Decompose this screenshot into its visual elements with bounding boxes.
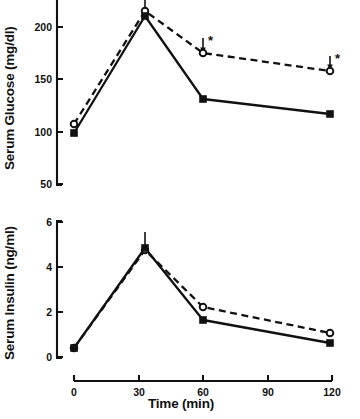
x-axis-title: Time (min) xyxy=(148,396,214,411)
x-tick-label-120: 120 xyxy=(320,386,344,398)
y-axis-line-insulin xyxy=(57,221,62,358)
y-tick-label-insulin-4: 4 xyxy=(26,261,52,273)
y-tick-label-glucose-50: 50 xyxy=(16,178,52,190)
y-tick-label-glucose-200: 200 xyxy=(16,21,52,33)
x-tick-label-30: 30 xyxy=(129,386,149,398)
y-tick-label-insulin-2: 2 xyxy=(26,306,52,318)
serum-insulin-plot xyxy=(0,205,360,419)
y-tick-label-insulin-6: 6 xyxy=(26,216,52,228)
figure-serum-glucose-insulin: Serum Glucose (mg/dl) 200 150 100 50 * * xyxy=(0,0,360,419)
y-tick-label-glucose-150: 150 xyxy=(16,73,52,85)
x-tick-label-90: 90 xyxy=(258,386,278,398)
series-line-filled-square-solid-glucose xyxy=(74,16,330,133)
series-line-open-circle-dashed-insulin xyxy=(74,250,330,348)
y-axis-title-glucose: Serum Glucose (mg/dl) xyxy=(2,26,17,170)
chart-panel-serum-glucose: Serum Glucose (mg/dl) 200 150 100 50 * * xyxy=(0,0,360,200)
y-tick-label-insulin-0: 0 xyxy=(26,351,52,363)
significance-asterisk-60: * xyxy=(208,33,213,48)
serum-glucose-plot xyxy=(0,0,360,200)
chart-panel-serum-insulin: Serum Insulin (ng/ml) 6 4 2 0 xyxy=(0,205,360,419)
y-tick-label-glucose-100: 100 xyxy=(16,126,52,138)
x-tick-label-0: 0 xyxy=(64,386,84,398)
series-line-open-circle-dashed-glucose xyxy=(74,11,330,124)
series-line-filled-square-solid-insulin xyxy=(74,248,330,348)
significance-asterisk-120: * xyxy=(335,51,340,66)
y-axis-title-insulin: Serum Insulin (ng/ml) xyxy=(2,226,17,360)
